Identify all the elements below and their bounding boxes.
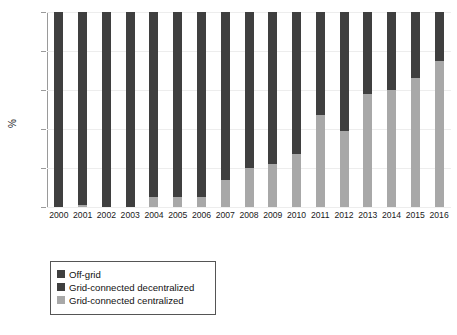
bar-segment-2005-grid-connected-decentralized — [173, 12, 182, 197]
bar-segment-2000-grid-connected-decentralized — [54, 41, 63, 207]
bar-2003 — [126, 12, 135, 207]
y-tick-100 — [41, 12, 46, 13]
y-axis-title-wrapper: % — [8, 118, 17, 129]
chart-legend: Off-grid Grid-connected decentralized Gr… — [50, 261, 216, 315]
bar-2002 — [102, 12, 111, 207]
bar-segment-2009-grid-connected-centralized — [268, 164, 277, 207]
bar-2013 — [363, 12, 372, 207]
bar-segment-2001-grid-connected-centralized — [78, 205, 87, 207]
bar-segment-2015-grid-connected-decentralized — [411, 12, 420, 78]
legend-label-grid-connected-decentralized: Grid-connected decentralized — [69, 283, 194, 293]
bar-segment-2013-grid-connected-centralized — [363, 94, 372, 207]
bar-segment-2002-off-grid — [102, 12, 111, 30]
bar-2001 — [78, 12, 87, 207]
bar-segment-2005-grid-connected-centralized — [173, 197, 182, 207]
y-tick-40 — [41, 129, 46, 130]
bar-2015 — [411, 12, 420, 207]
bar-2004 — [149, 12, 158, 207]
bar-segment-2008-grid-connected-centralized — [245, 168, 254, 207]
bar-segment-2004-grid-connected-decentralized — [149, 12, 158, 197]
bar-2005 — [173, 12, 182, 207]
legend-label-grid-connected-centralized: Grid-connected centralized — [69, 296, 184, 306]
legend-swatch-off-grid — [57, 270, 65, 278]
bar-segment-2013-grid-connected-decentralized — [363, 12, 372, 94]
bar-2009 — [268, 12, 277, 207]
bar-segment-2011-grid-connected-centralized — [316, 115, 325, 207]
bar-2006 — [197, 12, 206, 207]
y-axis-title: % — [7, 119, 18, 128]
bar-segment-2014-grid-connected-decentralized — [387, 12, 396, 90]
bar-2000 — [54, 12, 63, 207]
bar-segment-2007-grid-connected-decentralized — [221, 12, 230, 180]
bar-segment-2001-off-grid — [78, 12, 87, 26]
y-tick-0 — [41, 207, 46, 208]
bar-segment-2008-grid-connected-decentralized — [245, 12, 254, 168]
bar-segment-2002-grid-connected-decentralized — [102, 30, 111, 207]
legend-label-off-grid: Off-grid — [69, 270, 101, 280]
bar-segment-2000-off-grid — [54, 12, 63, 41]
bar-2016 — [435, 12, 444, 207]
bar-segment-2016-grid-connected-centralized — [435, 61, 444, 207]
legend-swatch-grid-connected-centralized — [57, 296, 65, 304]
bar-segment-2009-grid-connected-decentralized — [268, 12, 277, 164]
bar-segment-2016-grid-connected-decentralized — [435, 12, 444, 61]
bar-segment-2012-grid-connected-decentralized — [340, 12, 349, 131]
bar-segment-2006-grid-connected-decentralized — [197, 12, 206, 197]
bar-2011 — [316, 12, 325, 207]
bar-segment-2007-grid-connected-centralized — [221, 180, 230, 207]
bar-segment-2004-grid-connected-centralized — [149, 197, 158, 207]
bar-segment-2003-grid-connected-decentralized — [126, 28, 135, 207]
legend-item-grid-connected-decentralized: Grid-connected decentralized — [57, 283, 209, 293]
bar-2012 — [340, 12, 349, 207]
x-tick-label-2016: 2016 — [422, 211, 456, 220]
gridline-0 — [47, 207, 451, 208]
bar-2010 — [292, 12, 301, 207]
legend-item-grid-connected-centralized: Grid-connected centralized — [57, 296, 209, 306]
bar-segment-2010-grid-connected-centralized — [292, 154, 301, 207]
bar-segment-2011-grid-connected-decentralized — [316, 12, 325, 115]
plot-area — [47, 12, 451, 207]
bar-segment-2012-grid-connected-centralized — [340, 131, 349, 207]
bar-segment-2006-grid-connected-centralized — [197, 197, 206, 207]
bar-segment-2010-grid-connected-decentralized — [292, 12, 301, 154]
y-tick-20 — [41, 168, 46, 169]
bar-2008 — [245, 12, 254, 207]
bar-segment-2003-off-grid — [126, 12, 135, 28]
y-tick-60 — [41, 90, 46, 91]
legend-item-off-grid: Off-grid — [57, 270, 209, 280]
bar-2014 — [387, 12, 396, 207]
bar-segment-2014-grid-connected-centralized — [387, 90, 396, 207]
legend-swatch-grid-connected-decentralized — [57, 283, 65, 291]
bar-segment-2015-grid-connected-centralized — [411, 78, 420, 207]
y-tick-80 — [41, 51, 46, 52]
bar-2007 — [221, 12, 230, 207]
bar-segment-2001-grid-connected-decentralized — [78, 26, 87, 205]
